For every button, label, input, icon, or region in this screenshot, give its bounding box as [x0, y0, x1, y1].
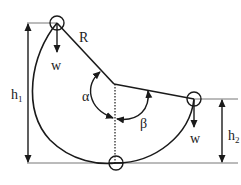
- radius-line-right: [114, 84, 194, 99]
- weight-label-right: w: [190, 131, 201, 146]
- h1-label: h1: [11, 87, 23, 104]
- pendulum-diagram: R w w α β h1 h2: [0, 0, 241, 185]
- radius-label: R: [79, 30, 89, 45]
- beta-label: β: [140, 116, 147, 131]
- weight-label-top: w: [51, 58, 62, 73]
- alpha-label: α: [82, 89, 90, 104]
- h2-label: h2: [228, 128, 240, 145]
